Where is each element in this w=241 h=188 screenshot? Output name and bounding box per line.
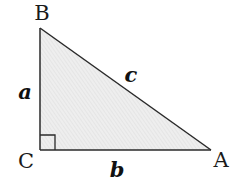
- side-label-b: b: [110, 157, 125, 182]
- vertex-label-b: B: [34, 1, 49, 25]
- side-label-a: a: [18, 79, 32, 104]
- side-label-c: c: [125, 62, 138, 87]
- vertex-label-a: A: [212, 148, 229, 172]
- right-triangle-diagram: B C A a b c: [0, 0, 241, 188]
- vertex-label-c: C: [18, 149, 34, 173]
